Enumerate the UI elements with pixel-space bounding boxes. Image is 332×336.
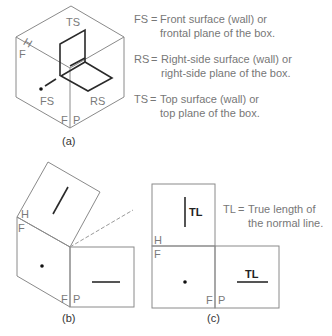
note-tl-line1: True length of <box>248 203 316 215</box>
cube-edge <box>70 37 124 68</box>
note-tl-line2: the normal line. <box>248 217 323 229</box>
legend-ts-eq: = <box>150 93 156 105</box>
legend-ts-key: TS <box>134 93 148 105</box>
normal-line-top-view <box>53 187 68 214</box>
label-fs: FS <box>40 95 54 107</box>
legend-fs-line1: Front surface (wall) or <box>160 13 267 25</box>
label-fp-f: F <box>61 114 68 126</box>
note-tl-key: TL <box>223 203 236 215</box>
label-fp-p: P <box>218 294 225 306</box>
legend-rs-key: RS <box>134 53 149 65</box>
label-fp-p: P <box>73 293 80 305</box>
legend-ts-line1: Top surface (wall) or <box>160 93 259 105</box>
legend-rs-line2: right-side plane of the box. <box>161 67 291 79</box>
label-rs: RS <box>90 95 105 107</box>
label-tl-side: TL <box>245 268 259 280</box>
label-tl-top: TL <box>189 206 203 218</box>
point-dot <box>183 280 187 284</box>
caption-c: (c) <box>207 312 220 324</box>
legend: FS = Front surface (wall) or frontal pla… <box>134 13 292 119</box>
legend-fs-line2: frontal plane of the box. <box>160 27 275 39</box>
fold-line-dashed <box>70 210 133 247</box>
right-side-plane <box>61 62 112 91</box>
note-tl-eq: = <box>238 203 244 215</box>
label-fp-p: P <box>73 114 80 126</box>
legend-ts-line2: top plane of the box. <box>160 107 260 119</box>
caption-b: (b) <box>62 312 75 324</box>
label-h: H <box>21 208 29 220</box>
label-fp-f: F <box>206 294 213 306</box>
point-dot <box>40 264 44 268</box>
caption-a: (a) <box>62 135 75 147</box>
normal-line <box>45 79 56 86</box>
figure-b: H F F P (b) <box>17 162 134 324</box>
label-h: H <box>154 234 162 246</box>
label-fp-f: F <box>61 293 68 305</box>
plane-edge <box>70 58 85 66</box>
orthographic-projection-diagram: TS FS RS H F F P (a) FS = Front surface … <box>0 0 332 336</box>
figure-c: TL TL H F F P (c) TL = True length of th… <box>152 184 323 324</box>
legend-rs-eq: = <box>151 53 157 65</box>
label-f: F <box>19 48 26 60</box>
label-f: F <box>18 222 25 234</box>
legend-fs-eq: = <box>151 13 157 25</box>
point-dot <box>39 87 43 91</box>
legend-rs-line1: Right-side surface (wall) or <box>161 53 292 65</box>
figure-a: TS FS RS H F F P (a) <box>16 6 124 147</box>
label-f: F <box>154 248 161 260</box>
label-ts: TS <box>66 16 80 28</box>
legend-fs-key: FS <box>134 13 148 25</box>
